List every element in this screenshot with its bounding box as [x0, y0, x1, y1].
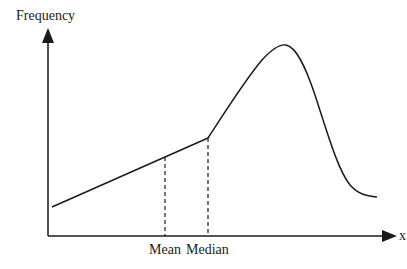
diagram-canvas: [0, 0, 407, 269]
y-axis-arrow-icon: [42, 28, 54, 43]
x-axis-arrow-icon: [382, 230, 397, 242]
median-label: Median: [186, 243, 229, 257]
skewed-distribution-diagram: Frequency x Mean Median: [0, 0, 407, 269]
x-axis-label: x: [399, 229, 406, 243]
y-axis-label: Frequency: [16, 9, 75, 23]
mean-label: Mean: [149, 243, 181, 257]
distribution-peak-curve: [208, 45, 377, 197]
distribution-left-tail: [52, 138, 208, 207]
